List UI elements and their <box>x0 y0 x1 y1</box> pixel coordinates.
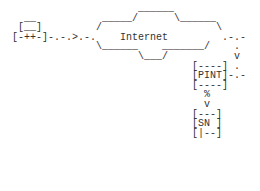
switch-bottom-line: [|--] <box>12 129 246 139</box>
ascii-network-diagram: ______ __ _____/ \______ [__] / \[-++-]-… <box>12 4 246 138</box>
